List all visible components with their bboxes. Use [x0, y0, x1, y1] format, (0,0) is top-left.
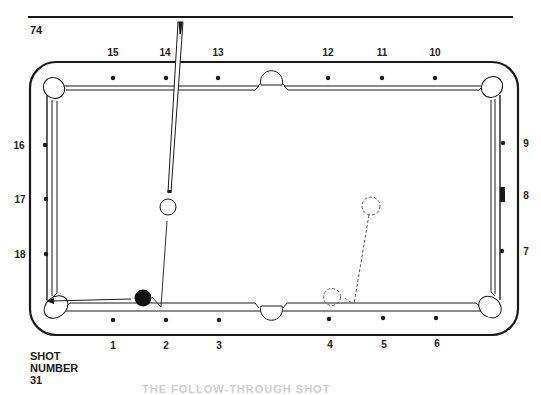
label-11: 11 [377, 47, 388, 58]
cushion-top-left [63, 82, 262, 90]
label-5: 5 [381, 339, 387, 350]
pocket-bottom-left [40, 291, 73, 323]
diamond-14 [164, 76, 168, 80]
cushion-right [491, 99, 495, 296]
diamond-1 [111, 318, 115, 322]
label-9: 9 [523, 138, 529, 149]
label-12: 12 [322, 47, 334, 58]
ghost-path [324, 197, 381, 306]
cue-ball-path [161, 221, 167, 307]
shot-number-block: SHOT NUMBER 31 [30, 350, 78, 386]
diamond-10 [433, 76, 437, 80]
label-14: 14 [159, 47, 171, 58]
diamond-9 [501, 141, 505, 145]
ghost-path-line [354, 215, 369, 304]
diamond-3 [217, 318, 221, 322]
label-15: 15 [107, 47, 119, 58]
marker-8-icon [500, 187, 505, 202]
label-8: 8 [523, 190, 529, 201]
label-3: 3 [216, 340, 222, 351]
diamond-4 [327, 317, 331, 321]
caption-cut-off: THE FOLLOW-THROUGH SHOT [142, 383, 330, 395]
label-4: 4 [327, 339, 333, 350]
label-13: 13 [212, 47, 224, 58]
cushion-bottom-right [281, 303, 484, 311]
diamond-7 [500, 249, 504, 253]
diamond-16 [43, 143, 47, 147]
label-2: 2 [163, 340, 169, 351]
diamond-12 [326, 76, 330, 80]
diamond-2 [164, 318, 168, 322]
cue-ball [160, 199, 176, 215]
diamond-18 [44, 252, 48, 256]
diamond-15 [111, 76, 115, 80]
ghost-ball-upper [362, 197, 380, 215]
label-18: 18 [14, 249, 26, 260]
cue-ball-contact-line [152, 297, 161, 307]
table-outer-rail [30, 62, 518, 335]
pocket-top-left [39, 73, 69, 102]
label-17: 17 [14, 194, 26, 205]
object-ball [135, 290, 152, 307]
diamond-6 [434, 316, 438, 320]
pocket-bottom-side [261, 306, 283, 320]
number-label: NUMBER [30, 362, 78, 374]
diamond-17 [44, 197, 48, 201]
diamond-13 [216, 76, 220, 80]
label-6: 6 [434, 338, 440, 349]
label-7: 7 [523, 246, 529, 257]
pocket-top-side [261, 71, 283, 85]
cushion-top-right [281, 82, 483, 90]
label-10: 10 [429, 47, 441, 58]
cushion-left [52, 100, 57, 297]
cushion-bottom-left [64, 303, 262, 311]
pocket-top-right [477, 72, 507, 101]
label-16: 16 [13, 140, 25, 151]
pocket-bottom-right [474, 292, 505, 323]
label-1: 1 [110, 340, 116, 351]
diamond-5 [381, 316, 385, 320]
shot-label: SHOT [30, 350, 78, 362]
diamond-11 [380, 76, 384, 80]
shot-number-value: 31 [30, 374, 78, 386]
